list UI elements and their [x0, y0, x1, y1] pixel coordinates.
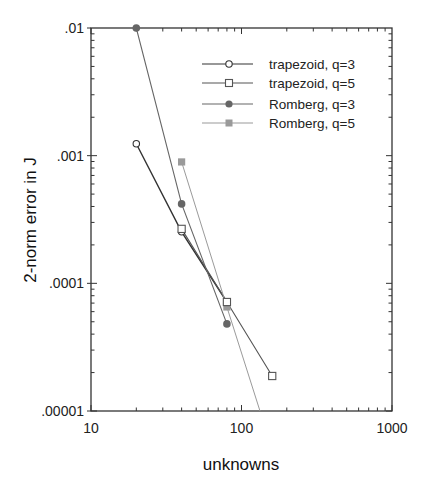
filled-circle-icon	[225, 100, 232, 107]
open-square-marker	[269, 372, 276, 379]
filled-circle-marker	[178, 200, 186, 208]
open-square-icon	[226, 80, 233, 87]
data-series	[136, 28, 272, 449]
y-tick-label: .01	[65, 20, 85, 36]
legend: trapezoid, q=3 trapezoid, q=5 Romberg, q…	[202, 57, 355, 131]
filled-circle-marker	[133, 24, 141, 32]
open-circle-icon	[226, 61, 232, 67]
data-markers	[133, 24, 276, 379]
x-axis-title: unknowns	[203, 455, 280, 474]
legend-item-trapezoid-q5: trapezoid, q=5	[202, 76, 355, 91]
legend-label: trapezoid, q=3	[269, 57, 355, 72]
legend-label: Romberg, q=5	[269, 116, 355, 131]
legend-label: Romberg, q=3	[269, 97, 355, 112]
y-tick-label: .0001	[49, 275, 84, 291]
y-axis-title: 2-norm error in J	[21, 157, 40, 283]
legend-label: trapezoid, q=5	[269, 76, 355, 91]
filled-square-marker	[178, 158, 185, 165]
open-circle-marker	[133, 141, 139, 147]
x-tick-label: 10	[83, 420, 99, 436]
legend-item-romberg-q5: Romberg, q=5	[202, 116, 355, 131]
series-line	[136, 144, 227, 302]
log-log-error-chart: 101001000.01.001.0001.00001 unknowns 2-n…	[0, 0, 431, 489]
open-square-marker	[223, 298, 230, 305]
y-tick-label: .001	[57, 148, 84, 164]
open-square-marker	[178, 225, 185, 232]
x-tick-label: 1000	[376, 420, 407, 436]
x-tick-label: 100	[230, 420, 254, 436]
legend-item-romberg-q3: Romberg, q=3	[202, 97, 355, 112]
y-tick-label: .00001	[41, 403, 84, 419]
filled-square-icon	[226, 120, 233, 127]
legend-item-trapezoid-q3: trapezoid, q=3	[202, 57, 355, 72]
filled-circle-marker	[223, 320, 231, 328]
